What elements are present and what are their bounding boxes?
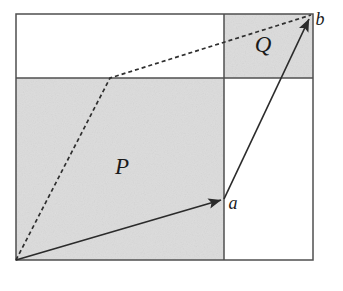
vector-parallelogram-figure: P Q a b xyxy=(0,0,343,291)
label-q: Q xyxy=(255,32,272,57)
label-a: a xyxy=(229,193,238,213)
label-p: P xyxy=(114,154,129,179)
figure-container: P Q a b xyxy=(0,0,343,291)
label-b: b xyxy=(316,9,325,29)
